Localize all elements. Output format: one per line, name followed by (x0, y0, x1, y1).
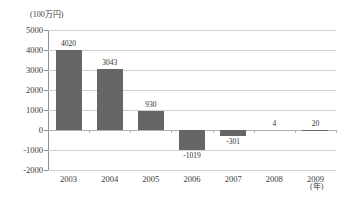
y-axis-tick-mark (44, 170, 48, 171)
bar-value-label: -1019 (183, 151, 201, 160)
bar (220, 130, 246, 136)
y-axis-tick-label: 4000 (26, 45, 43, 55)
gridline: 4000 (48, 50, 336, 51)
x-axis-tick-mark (213, 130, 214, 133)
y-axis-unit-label: (100万円) (30, 8, 63, 19)
x-axis-tick-mark (336, 130, 337, 133)
y-axis-tick-mark (44, 90, 48, 91)
gridline: 3000 (48, 70, 336, 71)
bar (56, 50, 82, 130)
y-axis-tick-label: 5000 (26, 25, 43, 35)
y-axis-tick-label: 1000 (26, 105, 43, 115)
y-axis-tick-label: 3000 (26, 65, 43, 75)
gridline: 2000 (48, 90, 336, 91)
bar (97, 69, 123, 130)
x-axis-category-label: 2006 (184, 174, 201, 184)
gridline: 1000 (48, 110, 336, 111)
y-axis-tick-label: -1000 (23, 145, 43, 155)
plot-area: 500040003000200010000-1000-2000402030439… (48, 30, 336, 170)
y-axis-tick-mark (44, 110, 48, 111)
bar-value-label: 3043 (102, 58, 117, 67)
x-axis-category-label: 2005 (142, 174, 159, 184)
x-axis-tick-mark (254, 130, 255, 133)
y-axis-tick-label: 2000 (26, 85, 43, 95)
bar (138, 111, 164, 130)
x-axis-category-label: 2003 (60, 174, 77, 184)
bar-value-label: 20 (312, 119, 320, 128)
y-axis-tick-mark (44, 150, 48, 151)
bar (179, 130, 205, 150)
y-axis-tick-label: 0 (39, 125, 43, 135)
y-axis-tick-mark (44, 70, 48, 71)
gridline: 5000 (48, 30, 336, 31)
y-axis-tick-mark (44, 130, 48, 131)
bar-value-label: 4 (272, 119, 276, 128)
x-axis-category-label: 2007 (225, 174, 242, 184)
x-axis-tick-mark (89, 130, 90, 133)
bar-value-label: -301 (226, 137, 240, 146)
y-axis-tick-mark (44, 50, 48, 51)
bar-value-label: 930 (145, 100, 156, 109)
gridline: -2000 (48, 170, 336, 171)
x-axis-category-label: 2008 (266, 174, 283, 184)
y-axis-tick-label: -2000 (23, 165, 43, 175)
y-axis-tick-mark (44, 30, 48, 31)
x-axis-tick-mark (130, 130, 131, 133)
x-axis-category-label: 2004 (101, 174, 118, 184)
x-axis-category-label: 2009 (307, 174, 324, 184)
bar-value-label: 4020 (61, 39, 76, 48)
x-axis-tick-mark (295, 130, 296, 133)
bar-chart: (100万円) 500040003000200010000-1000-20004… (0, 0, 348, 198)
x-axis-tick-mark (171, 130, 172, 133)
